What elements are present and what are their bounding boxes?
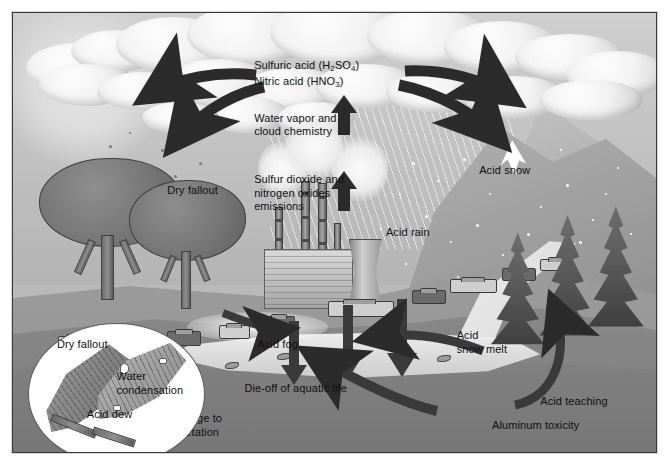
leaf-detail-inset: Dry fallout Water condensation Acid dew <box>28 323 205 453</box>
label-acid-snow: Acid snow <box>479 164 530 178</box>
conifer-tree <box>579 206 653 329</box>
label-acid-leaching: Acid teaching <box>540 395 607 409</box>
label-dry-fallout-sky: Dry fallout <box>167 184 218 198</box>
inset-label-water-condensation: Water condensation <box>117 370 184 397</box>
acid-rain-figure: Sulfuric acid (H2SO4) Nitric acid (HNO3)… <box>0 0 669 463</box>
label-sulfur-dioxide: Sulfur dioxide and nitrogen oxides emiss… <box>254 173 344 214</box>
label-nitric-acid: Nitric acid (HNO3) <box>254 61 343 91</box>
vehicle <box>412 290 446 304</box>
inset-label-dry-fallout: Dry fallout <box>57 338 108 352</box>
leaf-stem <box>92 427 136 448</box>
vehicle <box>264 316 295 330</box>
inset-label-acid-dew: Acid dew <box>87 408 132 422</box>
illustration-frame: Sulfuric acid (H2SO4) Nitric acid (HNO3)… <box>12 12 657 453</box>
label-aluminum-toxicity: Aluminum toxicity <box>492 419 579 433</box>
vehicle <box>219 325 250 339</box>
label-acid-snow-melt: Acid snow melt <box>457 329 507 356</box>
label-acid-rain: Acid rain <box>386 226 430 240</box>
label-acid-fog: Acid fog <box>257 338 298 352</box>
label-die-off: Die-off of aquatic life <box>244 382 346 396</box>
vehicle-bus <box>328 301 394 317</box>
water-droplet <box>159 358 167 364</box>
label-water-vapor: Water vapor and cloud chemistry <box>254 112 336 139</box>
